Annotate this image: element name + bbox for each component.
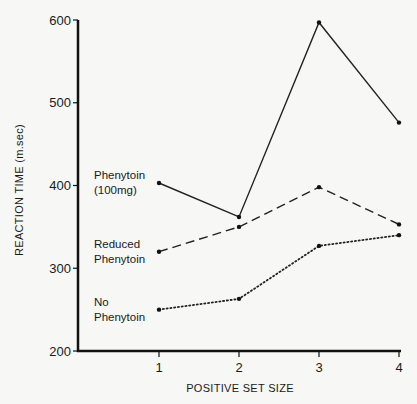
x-tick-label: 3 — [315, 360, 322, 375]
series-label: Phenytoin — [94, 253, 145, 265]
series-phenytoin-100mg: Phenytoin(100mg) — [94, 20, 401, 219]
series-line — [159, 22, 399, 216]
y-axis-label: REACTION TIME (m.sec) — [13, 124, 25, 256]
data-point — [397, 222, 401, 226]
series-label: Phenytoin — [94, 311, 145, 323]
data-point — [317, 20, 321, 24]
data-point — [157, 307, 161, 311]
series-label: (100mg) — [94, 184, 137, 196]
y-tick-label: 200 — [49, 344, 71, 359]
y-tick-label: 300 — [49, 261, 71, 276]
y-axis: 200300400500600 — [49, 13, 78, 359]
data-point — [237, 297, 241, 301]
series-line — [159, 235, 399, 309]
y-tick-label: 600 — [49, 13, 71, 28]
data-point — [397, 233, 401, 237]
x-tick-label: 2 — [235, 360, 242, 375]
series-group: Phenytoin(100mg)ReducedPhenytoinNoPhenyt… — [94, 20, 401, 322]
data-point — [317, 244, 321, 248]
data-point — [157, 181, 161, 185]
x-axis: 1234 — [77, 351, 403, 375]
series-label: Reduced — [94, 238, 140, 250]
series-no-phenytoin: NoPhenytoin — [94, 233, 401, 323]
y-tick-label: 400 — [49, 178, 71, 193]
data-point — [237, 215, 241, 219]
x-tick-label: 4 — [395, 360, 402, 375]
line-chart: 200300400500600 1234 Phenytoin(100mg)Red… — [0, 0, 417, 404]
data-point — [397, 120, 401, 124]
data-point — [317, 185, 321, 189]
series-label: No — [94, 296, 109, 308]
series-label: Phenytoin — [94, 169, 145, 181]
x-tick-label: 1 — [155, 360, 162, 375]
data-point — [157, 250, 161, 254]
x-axis-label: POSITIVE SET SIZE — [186, 382, 294, 394]
data-point — [237, 225, 241, 229]
series-line — [159, 187, 399, 252]
y-tick-label: 500 — [49, 95, 71, 110]
